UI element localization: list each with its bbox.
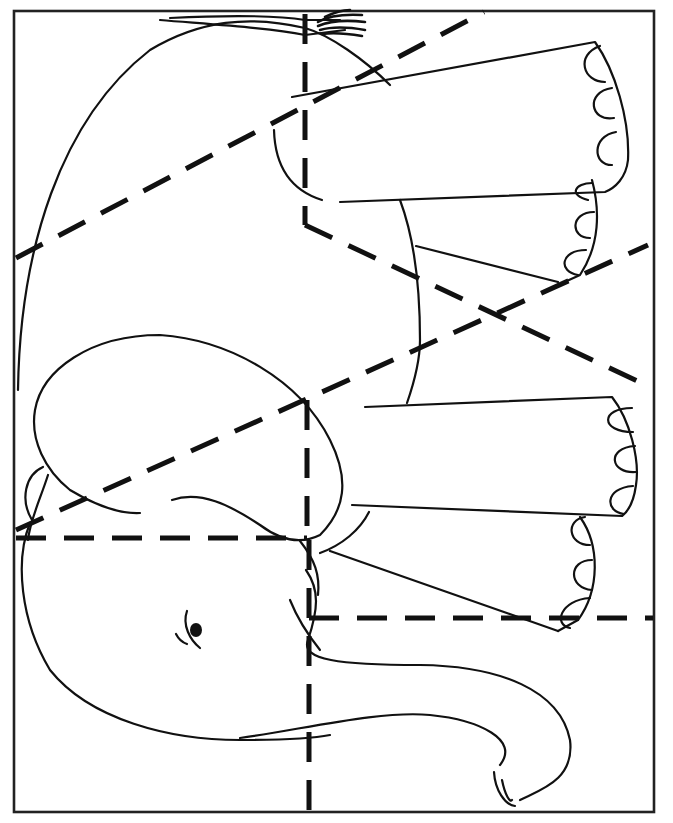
leg-third-toes	[608, 408, 636, 514]
leg-second-edge	[416, 246, 558, 282]
trunk-tip	[494, 772, 515, 806]
leg-top-knee-arc	[274, 130, 322, 200]
elephant-puzzle-drawing	[0, 0, 673, 823]
head-left-edge	[28, 475, 48, 540]
leg-second-toes	[565, 183, 594, 275]
cut-line	[305, 225, 652, 388]
leg-fourth-knee-arc	[320, 512, 369, 553]
leg-top-toes	[585, 46, 616, 165]
cut-line	[16, 12, 484, 258]
elephant-back-line	[170, 16, 340, 20]
leg-third-outline	[352, 397, 637, 516]
puzzle-frame	[14, 11, 654, 812]
elephant-body-outline	[18, 21, 390, 390]
leg-fourth-foot	[558, 517, 595, 631]
elephant-head-outline	[22, 523, 330, 740]
leg-second-outline	[400, 200, 420, 403]
cropped-caption: · · ·	[6, 0, 36, 8]
cut-line	[16, 245, 648, 530]
elephant-ear-outline	[34, 335, 342, 540]
leg-fourth-toes	[561, 517, 592, 628]
elephant-eye-icon	[176, 611, 201, 648]
cut-lines	[16, 12, 653, 812]
puzzle-canvas: · · ·	[0, 0, 673, 823]
leg-top-outline	[292, 42, 628, 202]
elephant-trunk-outline	[306, 570, 570, 800]
